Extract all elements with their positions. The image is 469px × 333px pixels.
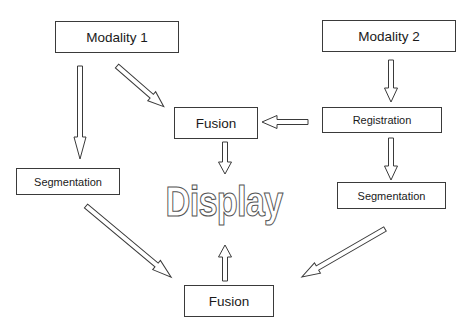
node-segmentation-left: Segmentation bbox=[16, 168, 120, 195]
arrow-registration-to-fusion-top bbox=[262, 116, 308, 129]
arrow-fusion-bottom-to-display bbox=[219, 245, 232, 281]
node-registration-label: Registration bbox=[353, 114, 412, 126]
arrow-modality1-to-fusion-top bbox=[113, 61, 168, 111]
node-modality-2: Modality 2 bbox=[322, 20, 456, 52]
arrow-registration-to-segmentation-right bbox=[385, 138, 398, 180]
fusion-flowchart: Modality 1 Modality 2 Fusion Registratio… bbox=[0, 0, 469, 333]
arrow-modality2-to-registration bbox=[385, 60, 398, 102]
node-fusion-bottom: Fusion bbox=[184, 285, 274, 317]
node-fusion-top-label: Fusion bbox=[196, 116, 237, 131]
node-modality-1: Modality 1 bbox=[55, 21, 179, 53]
arrow-fusion-top-to-display bbox=[219, 142, 232, 174]
display-outline-text: Display bbox=[172, 174, 277, 230]
node-segmentation-left-label: Segmentation bbox=[34, 176, 102, 188]
arrow-segmentation-right-to-fusion-bottom bbox=[299, 224, 388, 282]
node-modality-2-label: Modality 2 bbox=[358, 29, 420, 44]
node-fusion-top: Fusion bbox=[174, 107, 258, 139]
arrow-modality1-to-segmentation-left bbox=[74, 66, 86, 159]
node-segmentation-right-label: Segmentation bbox=[358, 190, 426, 202]
node-registration: Registration bbox=[322, 107, 442, 133]
node-fusion-bottom-label: Fusion bbox=[209, 294, 250, 309]
node-segmentation-right: Segmentation bbox=[337, 182, 446, 209]
node-modality-1-label: Modality 1 bbox=[86, 30, 148, 45]
arrow-segmentation-left-to-fusion-bottom bbox=[82, 201, 175, 281]
